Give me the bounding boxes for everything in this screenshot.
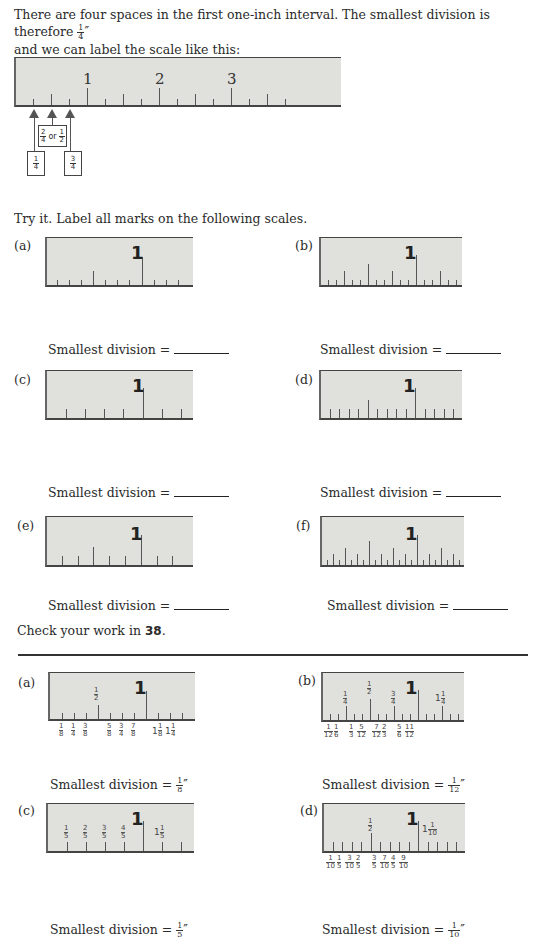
answer-ruler-b: 1 14 12 34 1 14 — [321, 672, 464, 722]
intro-paragraph: There are four spaces in the first one-i… — [14, 6, 539, 58]
exercise-letter-f: (f) — [296, 518, 310, 533]
frame-reference[interactable]: 38 — [145, 624, 162, 638]
exercise-ruler-f: 1 — [320, 516, 464, 567]
answer-d-bottom-labels: 110 15 310 25 35 710 45 910 — [326, 855, 466, 871]
answer-blank[interactable] — [174, 609, 229, 610]
exercise-ruler-a: 1 — [45, 237, 193, 287]
callout-half: 24 or 12 — [38, 125, 67, 147]
answer-line-a: Smallest division = — [48, 342, 229, 357]
answer-line-d: Smallest division = — [320, 485, 501, 500]
answer-letter-c: (c) — [18, 803, 35, 818]
answer-line-c: Smallest division = — [48, 485, 229, 500]
answer-line-f: Smallest division = — [327, 598, 508, 613]
exercise-instruction: Try it. Label all marks on the following… — [14, 210, 539, 227]
answer-letter-b: (b) — [298, 673, 316, 688]
answer-ruler-a: 1 12 — [48, 672, 195, 721]
exercise-letter-c: (c) — [14, 372, 31, 387]
answer-result-a: Smallest division = 18″ — [50, 777, 188, 794]
ruler-number-1: 1 — [83, 70, 93, 88]
section-divider — [18, 654, 528, 656]
exercise-ruler-e: 1 — [45, 516, 193, 567]
answer-blank[interactable] — [453, 609, 508, 610]
answer-blank[interactable] — [446, 496, 501, 497]
callout-three-quarters: 34 — [64, 151, 82, 176]
answer-blank[interactable] — [446, 353, 501, 354]
callout-one-quarter: 14 — [27, 151, 45, 176]
answer-blank[interactable] — [174, 353, 229, 354]
answer-ruler-d: 1 12 1 110 — [322, 803, 465, 853]
answer-letter-d: (d) — [300, 803, 318, 818]
answer-result-d: Smallest division = 110″ — [322, 922, 465, 939]
answer-b-bottom-labels: 112 16 13 512 712 23 56 1112 — [324, 724, 464, 740]
ruler-number-3: 3 — [227, 70, 237, 88]
exercise-letter-a: (a) — [14, 238, 31, 253]
answer-result-b: Smallest division = 112″ — [322, 777, 465, 794]
answer-line-b: Smallest division = — [320, 342, 501, 357]
exercise-letter-e: (e) — [17, 518, 34, 533]
answer-ruler-c: 1 15 25 35 45 1 15 — [46, 803, 194, 853]
answer-blank[interactable] — [174, 496, 229, 497]
exercise-ruler-b: 1 — [319, 237, 462, 287]
example-ruler: 1 2 3 — [14, 57, 341, 107]
intro-line2: and we can label the scale like this: — [14, 42, 240, 57]
exercise-ruler-c: 1 — [45, 370, 193, 420]
exercise-ruler-d: 1 — [319, 370, 462, 420]
answer-result-c: Smallest division = 15″ — [50, 922, 188, 939]
ruler-number-2: 2 — [155, 70, 165, 88]
exercise-letter-d: (d) — [295, 372, 313, 387]
answer-a-bottom-labels: 18 14 38 58 34 78 118 114 — [55, 723, 195, 739]
answer-line-e: Smallest division = — [48, 598, 229, 613]
answer-letter-a: (a) — [18, 675, 35, 690]
check-work-text: Check your work in 38. — [17, 623, 166, 638]
exercise-letter-b: (b) — [295, 238, 313, 253]
